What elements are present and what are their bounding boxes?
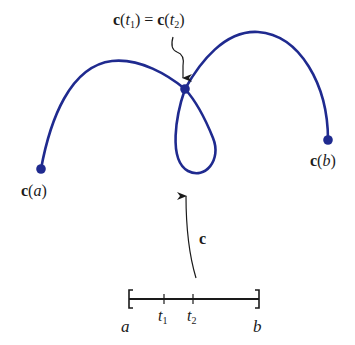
interval-label-t2: t2 (187, 307, 196, 326)
end-point-dot (323, 135, 333, 145)
start-label: c(a) (21, 182, 47, 200)
parametric-curve-diagram: c(t1) = c(t2) c(a) c(b) c a t1 t2 b (0, 0, 355, 345)
mapping-arrow-icon (186, 196, 196, 278)
end-label: c(b) (310, 152, 336, 170)
intersection-label: c(t1) = c(t2) (113, 11, 184, 30)
start-point-dot (36, 164, 46, 174)
pointer-arrow-icon (172, 37, 183, 78)
interval-label-a: a (121, 317, 130, 336)
parametric-curve (41, 32, 328, 173)
parameter-interval (129, 290, 259, 308)
intersection-point-dot (180, 84, 190, 94)
interval-label-b: b (253, 317, 262, 336)
interval-label-t1: t1 (158, 307, 167, 326)
mapping-label: c (199, 230, 206, 247)
